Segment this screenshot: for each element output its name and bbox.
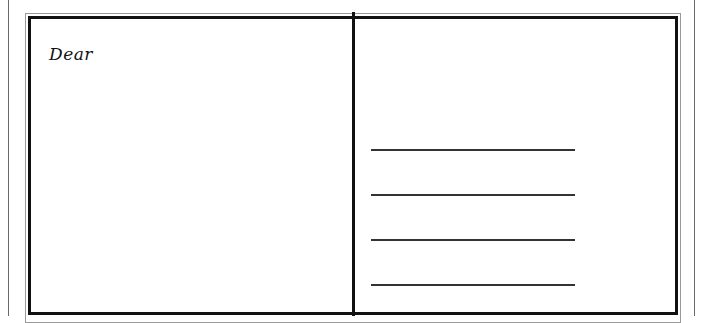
address-line-4[interactable] bbox=[371, 284, 575, 286]
outer-right-line bbox=[694, 0, 695, 316]
address-line-1[interactable] bbox=[371, 149, 575, 151]
postcard-center-divider bbox=[352, 12, 355, 316]
address-line-3[interactable] bbox=[371, 239, 575, 241]
greeting-text: Dear bbox=[49, 44, 93, 64]
address-line-2[interactable] bbox=[371, 194, 575, 196]
outer-left-line bbox=[8, 0, 9, 316]
